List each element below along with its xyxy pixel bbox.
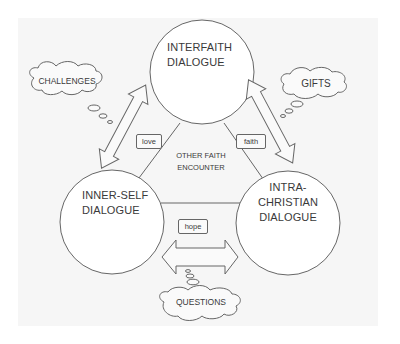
cloud-challenges [30,62,113,124]
box-faith: faith [236,134,266,149]
circle-inner-self [60,170,164,274]
label-intra-christian: INTRA- CHRISTIAN DIALOGUE [248,180,328,225]
label-interfaith-line1: INTERFAITH [167,40,239,55]
double-arrow-bottom [162,240,238,274]
label-other-faith-encounter: OTHER FAITH ENCOUNTER [168,150,234,174]
box-hope: hope [178,219,208,234]
cloud-questions [160,270,241,321]
cloud-gifts [281,67,347,117]
cloud-label-gifts: GIFTS [288,77,344,91]
label-center-line1: OTHER FAITH [168,150,234,162]
label-intra-christian-line3: DIALOGUE [248,210,328,225]
circle-interfaith [150,20,254,124]
box-love: love [136,134,162,149]
label-interfaith: INTERFAITH DIALOGUE [167,40,239,70]
double-arrow-left [92,80,156,173]
label-inner-self: INNER-SELF DIALOGUE [82,188,154,218]
cloud-label-challenges: CHALLENGES [38,76,96,87]
label-interfaith-line2: DIALOGUE [167,55,239,70]
label-center-line2: ENCOUNTER [168,162,234,174]
label-intra-christian-line2: CHRISTIAN [248,195,328,210]
cloud-label-questions: QUESTIONS [168,297,234,308]
label-inner-self-line1: INNER-SELF [82,188,154,203]
label-inner-self-line2: DIALOGUE [82,203,154,218]
label-intra-christian-line1: INTRA- [248,180,328,195]
